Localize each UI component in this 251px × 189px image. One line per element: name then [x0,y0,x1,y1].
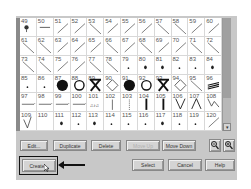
symbol-cell[interactable]: 64 [71,37,88,56]
symbol-backslash-icon [104,56,120,74]
symbol-cell[interactable]: 70 [172,37,189,56]
symbol-cell[interactable]: 97 [20,93,37,112]
symbol-cell[interactable]: 52 [71,18,88,37]
scroll-down-button[interactable]: ▾ [223,123,231,131]
symbol-cell[interactable]: 74 [37,56,54,75]
symbol-cell[interactable]: 98 [37,93,54,112]
symbol-cell[interactable]: 57 [155,18,172,37]
symbol-cell[interactable]: 62 [37,37,54,56]
svg-text:♫♪♫: ♫♪♫ [90,103,99,108]
symbol-filled-circle-icon [54,75,70,93]
symbol-cell[interactable]: 91 [121,75,138,94]
symbol-backslash-icon [20,37,36,55]
symbol-cell[interactable]: 78 [104,56,121,75]
vertical-scrollbar[interactable]: ▾ [222,18,231,131]
symbol-cell[interactable]: 118 [172,112,189,131]
symbol-cell[interactable]: 71 [188,37,205,56]
symbol-cell[interactable]: 102 [104,93,121,112]
symbol-cell[interactable]: 68 [138,37,155,56]
symbol-cell[interactable]: 105 [155,93,172,112]
symbol-cell[interactable]: 111 [54,112,71,131]
symbol-cell[interactable]: 104 [138,93,155,112]
symbol-cell[interactable]: 89 [87,75,104,94]
delete-button[interactable]: Delete [91,140,121,151]
symbol-slash-icon [121,37,137,55]
symbol-backslash-icon [87,56,103,74]
symbol-cell[interactable]: 87 [54,75,71,94]
symbol-cell[interactable]: 85 [20,75,37,94]
symbol-stripes-icon [205,75,221,93]
zoom-in-button[interactable] [223,139,235,152]
symbol-pin-icon [20,18,36,36]
symbol-cell[interactable]: 93 [155,75,172,94]
symbol-cell[interactable]: 61 [20,37,37,56]
symbol-cell[interactable]: 83 [188,56,205,75]
symbol-cell[interactable]: 94 [172,75,189,94]
zoom-out-button[interactable] [209,139,221,152]
move-down-button[interactable]: Move Down [162,140,196,151]
move-up-button[interactable]: Move Up [126,140,160,151]
symbol-cell[interactable]: 81 [155,56,172,75]
symbol-cell[interactable]: 108 [205,93,222,112]
cancel-button[interactable]: Cancel [168,159,202,171]
symbol-cell[interactable]: 109 [20,112,37,131]
symbol-cell[interactable]: 106 [172,93,189,112]
symbol-cell[interactable]: 54 [104,18,121,37]
symbol-cell[interactable]: 80 [138,56,155,75]
symbol-cell[interactable]: 79 [121,56,138,75]
symbol-cell[interactable]: 63 [54,37,71,56]
create-button[interactable]: Create... [22,159,56,172]
symbol-cell[interactable]: 77 [87,56,104,75]
select-button[interactable]: Select [132,159,164,171]
symbol-cell[interactable]: 56 [138,18,155,37]
symbol-cell[interactable]: 107 [188,93,205,112]
duplicate-button[interactable]: Duplicate [53,140,87,151]
symbol-dot-icon [20,75,36,93]
symbol-cell[interactable]: 86 [37,75,54,94]
symbol-cell[interactable]: 60 [205,18,222,37]
symbol-cell[interactable]: 120 [205,112,222,131]
symbol-cell[interactable]: 75 [54,56,71,75]
symbol-slash-icon [71,18,87,36]
symbol-cell[interactable]: 49 [20,18,37,37]
symbol-cell[interactable]: 95 [188,75,205,94]
symbol-cell[interactable]: 72 [205,37,222,56]
symbol-cell[interactable]: 100 [71,93,88,112]
symbol-cell[interactable]: 90 [104,75,121,94]
symbol-cell[interactable]: 84 [205,56,222,75]
symbol-cell[interactable]: 99 [54,93,71,112]
symbol-cell[interactable]: 115 [121,112,138,131]
edit-button[interactable]: Edit... [20,140,48,151]
symbol-cell[interactable]: 88 [71,75,88,94]
symbol-cell[interactable]: 69 [155,37,172,56]
symbol-slash-icon [54,37,70,55]
symbol-dot-icon [172,56,188,74]
symbol-cell[interactable]: 50 [37,18,54,37]
symbol-cell[interactable]: 82 [172,56,189,75]
symbol-cell[interactable]: 116 [138,112,155,131]
symbol-cell[interactable]: 66 [104,37,121,56]
symbol-cell[interactable]: 51 [54,18,71,37]
symbol-cell[interactable]: 55 [121,18,138,37]
symbol-cell[interactable]: 119 [188,112,205,131]
symbol-cell[interactable]: 58 [172,18,189,37]
symbol-cell[interactable]: 96 [205,75,222,94]
symbol-cell[interactable]: 65 [87,37,104,56]
symbol-cell[interactable]: 73 [20,56,37,75]
symbol-cell[interactable]: 112 [71,112,88,131]
symbol-cell[interactable]: 117 [155,112,172,131]
symbol-cell[interactable]: 114 [104,112,121,131]
symbol-cell[interactable]: 92 [138,75,155,94]
symbol-cell[interactable]: 76 [71,56,88,75]
symbol-cell[interactable]: 53 [87,18,104,37]
symbol-cell[interactable]: 103 [121,93,138,112]
symbol-cell[interactable]: 110 [37,112,54,131]
symbol-cell[interactable]: 67 [121,37,138,56]
scrollbar-thumb[interactable] [223,18,231,98]
symbol-cell[interactable]: 59 [188,18,205,37]
symbol-diamond-icon [104,75,120,93]
symbol-cell[interactable]: 101♫♪♫ [87,93,104,112]
symbol-cell[interactable]: 113 [87,112,104,131]
help-button[interactable]: Help [205,159,235,171]
symbol-slash-icon [87,37,103,55]
